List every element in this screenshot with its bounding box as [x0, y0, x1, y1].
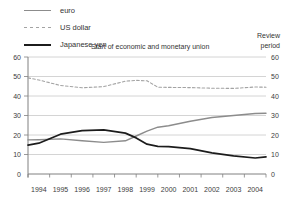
y-axis-label-right: 20	[271, 132, 279, 139]
x-axis-label: 2002	[204, 186, 220, 193]
y-axis-label-right: 50	[271, 73, 279, 80]
y-axis-label-left: 10	[13, 151, 21, 158]
series-line-euro	[28, 113, 266, 142]
y-axis-label-right: 10	[271, 151, 279, 158]
y-axis-label-left: 50	[13, 73, 21, 80]
y-axis-label-right: 40	[271, 93, 279, 100]
x-axis-label: 2000	[161, 186, 177, 193]
y-axis-label-left: 40	[13, 93, 21, 100]
x-axis-label: 2001	[182, 186, 198, 193]
x-axis-label: 2003	[226, 186, 242, 193]
y-axis-label-left: 30	[13, 112, 21, 119]
series-line-us-dollar	[28, 78, 266, 89]
y-axis-label-left: 0	[17, 171, 21, 178]
y-axis-label-left: 60	[13, 54, 21, 61]
x-axis-label: 2004	[247, 186, 263, 193]
y-axis-label-left: 20	[13, 132, 21, 139]
y-axis-label-right: 30	[271, 112, 279, 119]
y-axis-label-right: 0	[271, 171, 275, 178]
x-axis-label: 1997	[96, 186, 112, 193]
x-axis-label: 1995	[53, 186, 69, 193]
x-axis-label: 1994	[31, 186, 47, 193]
series-line-japanese-yen	[28, 130, 266, 158]
y-axis-label-right: 60	[271, 54, 279, 61]
x-axis-label: 1996	[74, 186, 90, 193]
chart-panel: euro US dollar Japanese yen Start of eco…	[0, 0, 287, 202]
x-axis-label: 1998	[118, 186, 134, 193]
line-chart: 0010102020303040405050606019941995199619…	[0, 0, 287, 202]
x-axis-label: 1999	[139, 186, 155, 193]
